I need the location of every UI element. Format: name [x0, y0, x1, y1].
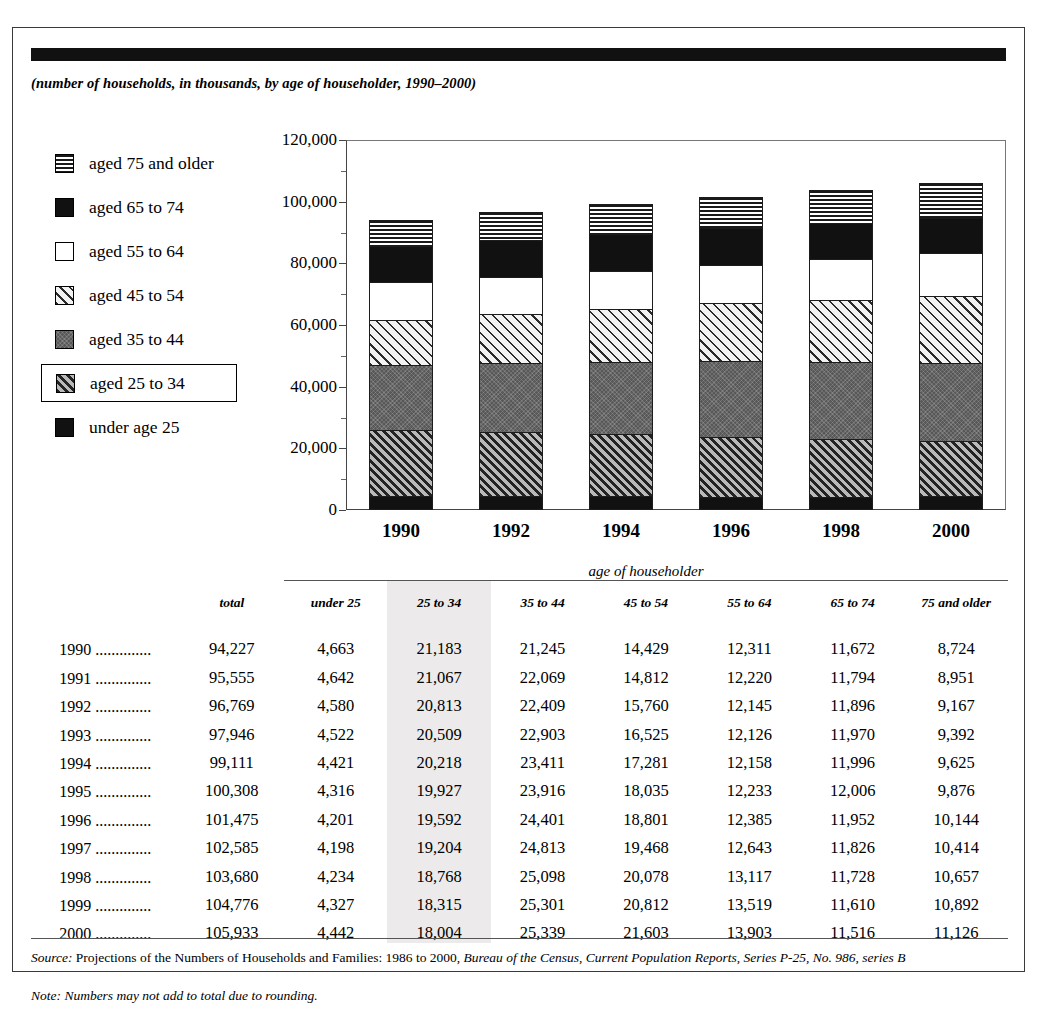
bar-segment-25-to-34: [919, 441, 983, 497]
table-cell-35-to-44: 21,245: [491, 631, 594, 659]
table-row[interactable]: 1995 ..............100,3084,31619,92723,…: [31, 773, 1008, 801]
table-cell-total: 103,680: [180, 858, 284, 886]
y-axis-major-tick: [339, 510, 346, 511]
table-cell-55-to-64: 12,158: [698, 745, 801, 773]
table-cell-25-to-34: 20,218: [387, 745, 490, 773]
legend-swatch-horizontal-lines-icon: [55, 154, 74, 173]
legend-swatch-white-icon: [55, 242, 74, 261]
table-cell-under-25: 4,421: [284, 745, 387, 773]
legend-item-aged-35-to-44[interactable]: aged 35 to 44: [41, 317, 271, 361]
bar-segment-65-to-74: [589, 234, 653, 271]
table-cell-65-to-74: 11,970: [801, 716, 904, 744]
table-header-row: totalunder 2525 to 3435 to 4445 to 5455 …: [31, 581, 1008, 616]
table-cell-35-to-44: 25,098: [491, 858, 594, 886]
table-cell-total: 94,227: [180, 631, 284, 659]
bar-segment-45-to-54: [479, 314, 543, 363]
bar-segment-55-to-64: [809, 259, 873, 299]
y-axis-major-tick: [339, 448, 346, 449]
bar-segment-45-to-54: [589, 309, 653, 362]
table-row[interactable]: 1993 ..............97,9464,52220,50922,9…: [31, 716, 1008, 744]
table-cell-under-25: 4,442: [284, 915, 387, 943]
bar-1998[interactable]: [809, 190, 873, 510]
note-label: Note:: [31, 988, 61, 1003]
table-cell-45-to-54: 14,812: [594, 659, 697, 687]
bar-segment-75-and-older: [699, 197, 763, 228]
bar-segment-35-to-44: [479, 363, 543, 432]
bar-segment-35-to-44: [809, 362, 873, 439]
x-axis-label-1990: 1990: [382, 520, 420, 542]
table-cell-total: 97,946: [180, 716, 284, 744]
legend-swatch-dense-hatch-icon: [56, 374, 75, 393]
bar-segment-65-to-74: [809, 223, 873, 259]
chart-legend: aged 75 and olderaged 65 to 74aged 55 to…: [41, 141, 271, 449]
table-row[interactable]: 1999 ..............104,7764,32718,31525,…: [31, 887, 1008, 915]
table-column-header-55-to-64: 55 to 64: [698, 581, 801, 616]
table-cell-45-to-54: 14,429: [594, 631, 697, 659]
legend-item-aged-75-and-older[interactable]: aged 75 and older: [41, 141, 271, 185]
table-cell-year: 1993 ..............: [31, 716, 180, 744]
table-cell-25-to-34: 18,004: [387, 915, 490, 943]
bar-1990[interactable]: [369, 220, 433, 511]
table-cell-25-to-34: 20,509: [387, 716, 490, 744]
source-note: Source: Projections of the Numbers of Ho…: [31, 950, 905, 966]
legend-item-aged-55-to-64[interactable]: aged 55 to 64: [41, 229, 271, 273]
y-axis-minor-tick: [341, 479, 346, 480]
table-cell-55-to-64: 13,519: [698, 887, 801, 915]
table-cell-year: 1990 ..............: [31, 631, 180, 659]
bar-segment-65-to-74: [699, 228, 763, 265]
table-spacer-cell: [594, 615, 697, 631]
table-cell-65-to-74: 11,826: [801, 830, 904, 858]
source-text-2: Bureau of the Census, Current Population…: [464, 950, 906, 965]
table-cell-75-and-older: 8,951: [904, 659, 1008, 687]
rounding-note: Note: Numbers may not add to total due t…: [31, 988, 318, 1004]
table-group-header-spacer: [31, 556, 180, 581]
bar-segment-55-to-64: [919, 253, 983, 296]
table-cell-65-to-74: 11,672: [801, 631, 904, 659]
bar-segment-35-to-44: [369, 365, 433, 431]
table-row[interactable]: 1998 ..............103,6804,23418,76825,…: [31, 858, 1008, 886]
table-cell-75-and-older: 9,625: [904, 745, 1008, 773]
table-row[interactable]: 1992 ..............96,7694,58020,81322,4…: [31, 688, 1008, 716]
table-row[interactable]: 2000 ..............105,9334,44218,00425,…: [31, 915, 1008, 943]
table-row[interactable]: 1990 ..............94,2274,66321,18321,2…: [31, 631, 1008, 659]
bar-segment-75-and-older: [919, 183, 983, 217]
table-cell-45-to-54: 21,603: [594, 915, 697, 943]
bar-segment-under-25: [809, 497, 873, 510]
table-cell-65-to-74: 11,896: [801, 688, 904, 716]
legend-item-aged-25-to-34[interactable]: aged 25 to 34: [41, 364, 237, 402]
table-cell-under-25: 4,522: [284, 716, 387, 744]
table-cell-75-and-older: 10,892: [904, 887, 1008, 915]
bar-1994[interactable]: [589, 204, 653, 510]
table-cell-75-and-older: 10,657: [904, 858, 1008, 886]
table-row[interactable]: 1994 ..............99,1114,42120,21823,4…: [31, 745, 1008, 773]
legend-item-aged-45-to-54[interactable]: aged 45 to 54: [41, 273, 271, 317]
table-cell-65-to-74: 11,794: [801, 659, 904, 687]
table-cell-35-to-44: 22,069: [491, 659, 594, 687]
table-cell-under-25: 4,663: [284, 631, 387, 659]
table-cell-45-to-54: 19,468: [594, 830, 697, 858]
plot-frame: [346, 140, 1006, 510]
bar-1996[interactable]: [699, 197, 763, 510]
table-row[interactable]: 1991 ..............95,5554,64221,06722,0…: [31, 659, 1008, 687]
table-cell-25-to-34: 21,067: [387, 659, 490, 687]
table-cell-55-to-64: 12,385: [698, 801, 801, 829]
table-column-header: [31, 581, 180, 616]
table-column-header-75-and-older: 75 and older: [904, 581, 1008, 616]
legend-swatch-solid-black-icon: [55, 198, 74, 217]
table-spacer-cell: [904, 615, 1008, 631]
table-cell-25-to-34: 19,927: [387, 773, 490, 801]
legend-item-under-age-25[interactable]: under age 25: [41, 405, 271, 449]
table-cell-25-to-34: 21,183: [387, 631, 490, 659]
table-row[interactable]: 1997 ..............102,5854,19819,20424,…: [31, 830, 1008, 858]
legend-item-label: aged 35 to 44: [89, 329, 184, 350]
bar-segment-35-to-44: [919, 363, 983, 441]
table-group-header-row: age of householder: [31, 556, 1008, 581]
bar-2000[interactable]: [919, 183, 983, 510]
source-text-1: Projections of the Numbers of Households…: [72, 950, 463, 965]
bar-1992[interactable]: [479, 212, 543, 510]
legend-item-aged-65-to-74[interactable]: aged 65 to 74: [41, 185, 271, 229]
table-row[interactable]: 1996 ..............101,4754,20119,59224,…: [31, 801, 1008, 829]
table-cell-45-to-54: 17,281: [594, 745, 697, 773]
table-cell-under-25: 4,580: [284, 688, 387, 716]
table-group-header: age of householder: [284, 556, 1008, 581]
